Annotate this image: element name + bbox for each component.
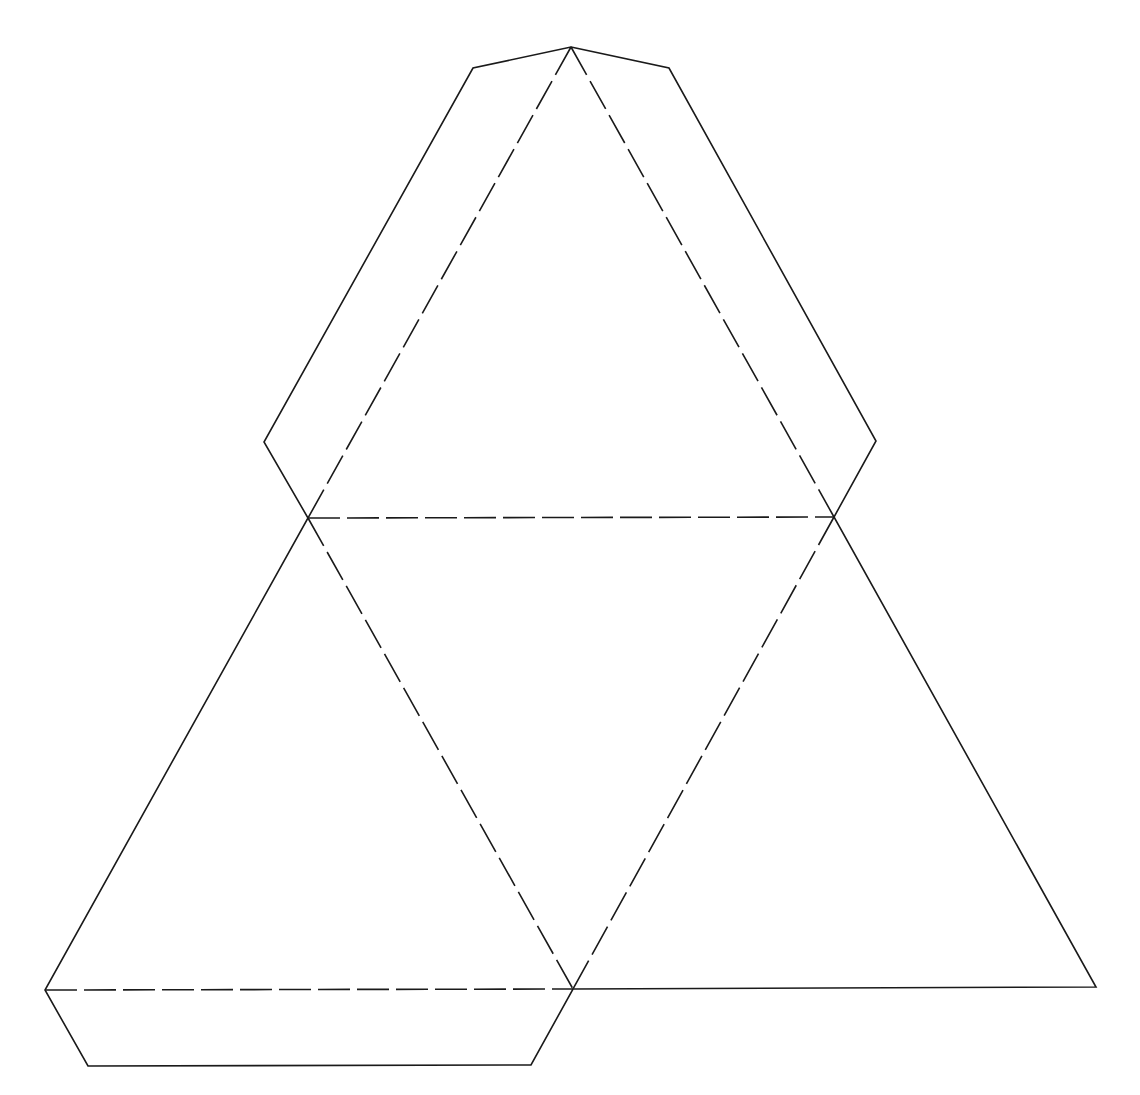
center-face (308, 517, 834, 989)
bottom-tab (45, 989, 573, 1066)
top-right-fold (571, 47, 834, 517)
center-right-fold (573, 517, 834, 989)
top-left-fold (308, 47, 571, 518)
tetrahedron-net-diagram (0, 0, 1140, 1095)
bottom-tab-fold (45, 989, 573, 990)
top-face (308, 47, 834, 518)
center-left-fold (308, 518, 573, 989)
middle-horizontal-fold (308, 517, 834, 518)
tetrahedron-net-canvas (0, 0, 1140, 1095)
faces-layer (45, 47, 1096, 990)
cut-outline (45, 47, 1096, 1066)
left-face (45, 518, 573, 990)
top-right-tab (571, 47, 876, 517)
top-left-tab (264, 47, 571, 518)
right-face (573, 517, 1096, 989)
fold-lines-layer (45, 47, 834, 990)
glue-tabs-layer (45, 47, 876, 1066)
